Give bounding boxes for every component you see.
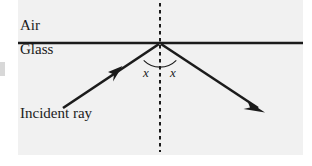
label-air: Air	[20, 18, 40, 33]
label-angle-of-reflection: x	[170, 66, 176, 79]
label-glass: Glass	[20, 42, 53, 57]
label-angle-of-incidence: x	[143, 66, 149, 79]
reflection-diagram	[0, 0, 312, 166]
label-incident-ray: Incident ray	[20, 106, 92, 121]
cropped-edge-mark	[0, 62, 5, 76]
optics-reflection-figure: Air Glass Incident ray x x	[0, 0, 312, 166]
